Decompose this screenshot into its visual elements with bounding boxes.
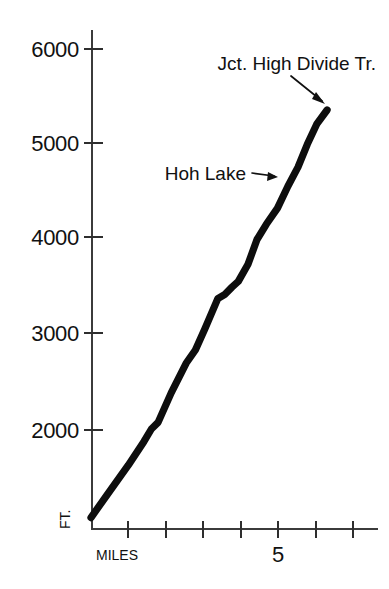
x-tick-label-5: 5 bbox=[272, 542, 284, 567]
y-tick-group bbox=[84, 49, 103, 430]
y-tick-label-4000: 4000 bbox=[31, 225, 79, 250]
annotation-junction: Jct. High Divide Tr. bbox=[218, 53, 376, 104]
y-tick-label-3000: 3000 bbox=[31, 321, 79, 346]
y-axis-unit-label: FT. bbox=[57, 510, 73, 529]
y-tick-label-6000: 6000 bbox=[31, 37, 79, 62]
chart-canvas: 6000 5000 4000 3000 2000 5 FT. MILES Jct… bbox=[0, 0, 389, 589]
annotation-hoh-lake: Hoh Lake bbox=[165, 163, 278, 184]
x-axis-unit-label: MILES bbox=[96, 547, 138, 563]
annotation-junction-label: Jct. High Divide Tr. bbox=[218, 53, 376, 74]
annotation-hoh-lake-label: Hoh Lake bbox=[165, 163, 246, 184]
y-tick-label-2000: 2000 bbox=[31, 418, 79, 443]
elevation-profile-chart: 6000 5000 4000 3000 2000 5 FT. MILES Jct… bbox=[0, 0, 389, 589]
annotation-hoh-lake-arrowhead-icon bbox=[267, 172, 278, 181]
y-tick-label-5000: 5000 bbox=[31, 131, 79, 156]
y-tick-label-group: 6000 5000 4000 3000 2000 bbox=[31, 37, 79, 443]
